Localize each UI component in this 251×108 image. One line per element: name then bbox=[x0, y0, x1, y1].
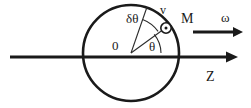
delta-theta-angle-arc bbox=[143, 20, 159, 32]
angular-velocity-label: ω bbox=[221, 11, 230, 24]
velocity-label: v bbox=[160, 4, 166, 16]
delta-theta-label: δθ bbox=[126, 12, 138, 25]
theta-label: θ bbox=[149, 40, 155, 53]
mass-point-label: M bbox=[181, 12, 193, 26]
radius-ray-to-mass bbox=[131, 29, 164, 53]
physics-diagram-figure: δθ v M ω 0 θ Z bbox=[0, 0, 251, 108]
omega-arrowhead bbox=[233, 27, 243, 37]
velocity-marker-dot bbox=[165, 27, 168, 30]
z-axis-label: Z bbox=[206, 70, 215, 84]
origin-label: 0 bbox=[112, 39, 119, 52]
z-axis-arrowhead bbox=[226, 52, 238, 63]
